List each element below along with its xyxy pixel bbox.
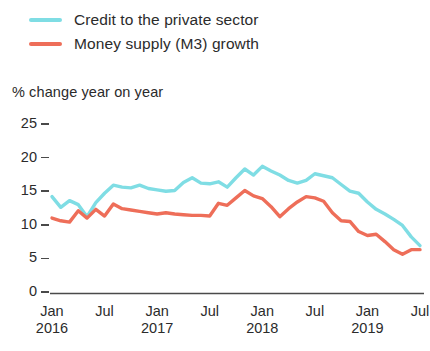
x-tick-month: Jan	[25, 303, 79, 320]
y-tick-label: 20	[7, 150, 37, 165]
y-tick-label: 10	[7, 217, 37, 232]
y-tick-mark	[41, 224, 49, 226]
x-tick-group: Jul	[78, 303, 132, 320]
x-tick-month: Jan	[340, 303, 394, 320]
chart-figure: Credit to the private sector Money suppl…	[0, 0, 430, 351]
x-tick-month: Jul	[393, 303, 430, 320]
plot-svg	[0, 0, 430, 351]
x-tick-group: Jul	[393, 303, 430, 320]
y-tick-mark	[41, 291, 49, 293]
series-layer	[52, 166, 420, 254]
y-tick-label: 0	[7, 284, 37, 299]
x-tick-group: Jan2018	[235, 303, 289, 337]
y-tick-mark	[41, 123, 49, 125]
x-tick-year: 2017	[130, 320, 184, 337]
x-tick-group: Jul	[183, 303, 237, 320]
x-tick-month: Jul	[288, 303, 342, 320]
x-tick-group: Jul	[288, 303, 342, 320]
y-tick-mark	[41, 190, 49, 192]
x-tick-group: Jan2016	[25, 303, 79, 337]
x-tick-year: 2016	[25, 320, 79, 337]
y-tick-mark	[41, 157, 49, 159]
x-tick-year: 2018	[235, 320, 289, 337]
x-tick-month: Jul	[183, 303, 237, 320]
plot-area: 0510152025 Jan2016JulJan2017JulJan2018Ju…	[0, 0, 430, 351]
x-tick-group: Jan2017	[130, 303, 184, 337]
x-tick-year: 2019	[340, 320, 394, 337]
y-tick-label: 5	[7, 250, 37, 265]
x-tick-month: Jan	[130, 303, 184, 320]
y-tick-mark	[41, 258, 49, 260]
y-tick-label: 25	[7, 116, 37, 131]
x-tick-month: Jan	[235, 303, 289, 320]
x-tick-group: Jan2019	[340, 303, 394, 337]
x-tick-month: Jul	[78, 303, 132, 320]
y-tick-label: 15	[7, 183, 37, 198]
